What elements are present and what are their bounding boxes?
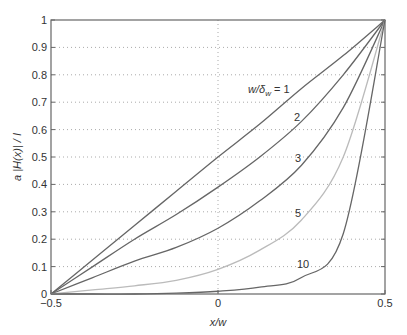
y-tick-label: 0.7: [32, 96, 47, 108]
y-tick-label: 0.3: [32, 206, 47, 218]
y-tick-label: 0.1: [32, 261, 47, 273]
y-tick-label: 0.6: [32, 124, 47, 136]
x-tick-label: 0: [215, 297, 221, 309]
curve-label-1: w/δw = 1: [248, 83, 290, 98]
y-tick-label: 0.5: [32, 151, 47, 163]
y-tick-label: 0.8: [32, 69, 47, 81]
y-axis-label: a |H(x)| / I: [11, 133, 23, 181]
y-tick-label: 0.9: [32, 41, 47, 53]
curve-label-5: 5: [295, 207, 301, 219]
y-tick-label: 0.2: [32, 233, 47, 245]
x-axis-label: x/w: [209, 316, 228, 328]
line-chart: 00.10.20.30.40.50.60.70.80.91−0.500.5 x/…: [0, 0, 407, 335]
curve-label-10: 10: [297, 258, 309, 270]
curve-label-2: 2: [294, 111, 300, 123]
curve-label-3: 3: [295, 152, 301, 164]
y-tick-label: 1: [41, 14, 47, 26]
y-tick-label: 0.4: [32, 178, 47, 190]
x-tick-label: −0.5: [40, 297, 62, 309]
x-tick-label: 0.5: [377, 297, 392, 309]
